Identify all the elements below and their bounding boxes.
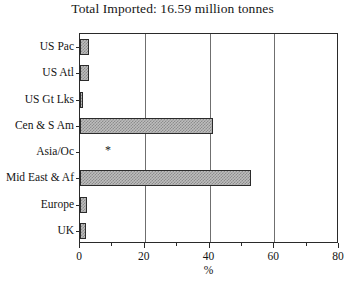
bar-us-atl	[80, 65, 89, 81]
y-axis-label-mid-east-af: Mid East & Af	[0, 171, 74, 183]
bar-us-gt-lks	[80, 92, 83, 108]
bar-row-asia-oc	[80, 139, 337, 165]
x-axis-label-0: 0	[59, 249, 99, 263]
y-axis-label-cen-s-am: Cen & S Am	[0, 119, 74, 131]
bar-chart: Total Imported: 16.59 million tonnes US …	[0, 0, 345, 281]
bar-mid-east-af	[80, 170, 251, 186]
x-tick-40	[209, 243, 210, 248]
x-minor-tick-70	[306, 243, 307, 246]
chart-title: Total Imported: 16.59 million tonnes	[0, 1, 345, 17]
x-axis-label-20: 20	[124, 249, 164, 263]
x-tick-80	[338, 243, 339, 248]
y-tick-us-gt-lks	[76, 100, 80, 101]
bar-row-uk	[80, 218, 337, 244]
y-tick-asia-oc	[76, 152, 80, 153]
bar-row-mid-east-af	[80, 165, 337, 191]
plot-area	[79, 33, 338, 243]
x-axis-label-40: 40	[189, 249, 229, 263]
bar-row-europe	[80, 192, 337, 218]
x-axis-label-80: 80	[318, 249, 345, 263]
y-axis-label-europe: Europe	[0, 198, 74, 210]
bar-us-pac	[80, 39, 89, 55]
bar-europe	[80, 197, 87, 213]
x-tick-60	[273, 243, 274, 248]
bar-row-us-atl	[80, 60, 337, 86]
x-axis-label-60: 60	[253, 249, 293, 263]
y-tick-uk	[76, 231, 80, 232]
x-minor-tick-10	[111, 243, 112, 246]
y-axis-label-asia-oc: Asia/Oc	[0, 145, 74, 157]
y-tick-us-atl	[76, 73, 80, 74]
bar-row-cen-s-am	[80, 113, 337, 139]
x-axis-title: %	[79, 263, 338, 277]
y-tick-us-pac	[76, 47, 80, 48]
bar-row-us-gt-lks	[80, 87, 337, 113]
annotation-asia-oc: *	[105, 143, 111, 157]
y-tick-mid-east-af	[76, 178, 80, 179]
y-axis-label-us-atl: US Atl	[0, 66, 74, 78]
y-tick-europe	[76, 205, 80, 206]
x-minor-tick-50	[241, 243, 242, 246]
y-axis-label-uk: UK	[0, 224, 74, 236]
x-tick-20	[144, 243, 145, 248]
y-tick-cen-s-am	[76, 126, 80, 127]
bar-uk	[80, 223, 86, 239]
y-axis-label-us-pac: US Pac	[0, 40, 74, 52]
y-axis-label-us-gt-lks: US Gt Lks	[0, 93, 74, 105]
bar-cen-s-am	[80, 118, 213, 134]
x-minor-tick-30	[176, 243, 177, 246]
x-tick-0	[79, 243, 80, 248]
bar-row-us-pac	[80, 34, 337, 60]
